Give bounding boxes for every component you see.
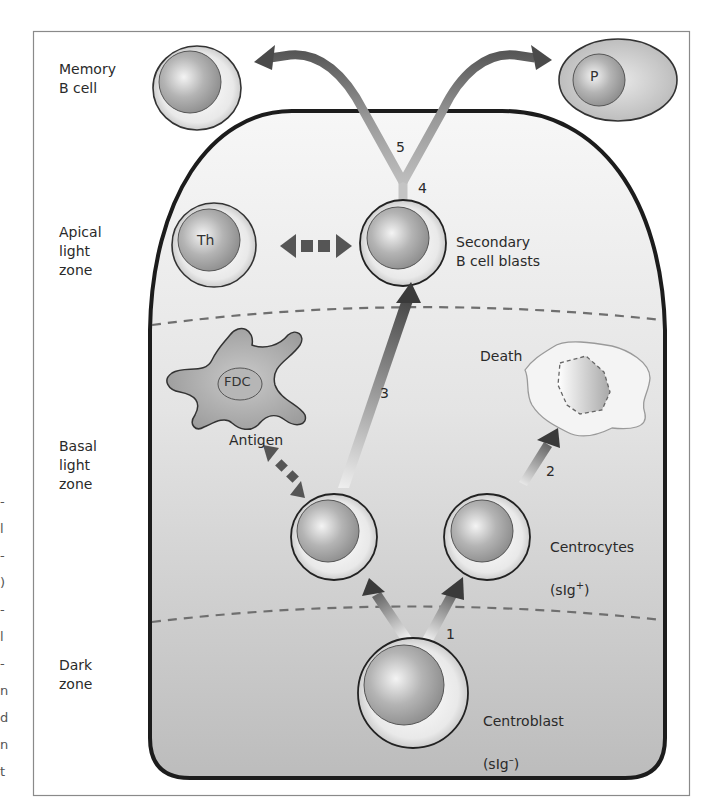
step-3-label: 3 [380,385,389,401]
centroblast-text: Centroblast [483,713,564,729]
centrocytes-marker: (sIg [550,582,576,598]
label-centroblast: Centroblast (sIg–) [474,693,564,774]
centrocytes-marker-close: ) [584,582,589,598]
secondary-b-cell-blast [360,200,446,286]
cropped-edge-text: - l - ) - l - n d n t [0,488,8,785]
label-th: Th [197,232,214,248]
centrocyte-right [444,494,530,580]
diagram-canvas [0,0,724,808]
step-5-label: 5 [396,139,405,155]
centrocytes-text: Centrocytes [550,539,634,555]
label-centrocytes: Centrocytes (sIg+) [541,519,634,600]
germinal-center-diagram: - l - ) - l - n d n t Memory B cell Apic… [0,0,724,808]
arrowhead-to-memory-icon [254,45,275,70]
step-4-label: 4 [418,180,427,196]
label-antigen: Antigen [229,431,283,450]
label-basal-light-zone: Basal light zone [59,437,97,494]
centroblast-marker-close: ) [514,756,519,772]
plasma-cell [559,39,677,121]
label-death: Death [480,347,522,366]
arrowhead-to-plasma-icon [531,45,552,70]
centrocytes-marker-sup: + [576,580,584,591]
centrocyte-left [291,494,377,580]
label-apical-light-zone: Apical light zone [59,223,102,280]
step-1-label: 1 [446,626,455,642]
label-memory-b-cell: Memory B cell [59,60,116,98]
label-fdc: FDC [224,374,251,389]
step-2-label: 2 [546,463,555,479]
label-plasma: P [590,68,598,84]
label-secondary-b-cell-blasts: Secondary B cell blasts [456,233,540,271]
label-dark-zone: Dark zone [59,656,92,694]
memory-b-cell [153,46,241,130]
centroblast-marker: (sIg [483,756,509,772]
centroblast-cell [358,638,468,748]
